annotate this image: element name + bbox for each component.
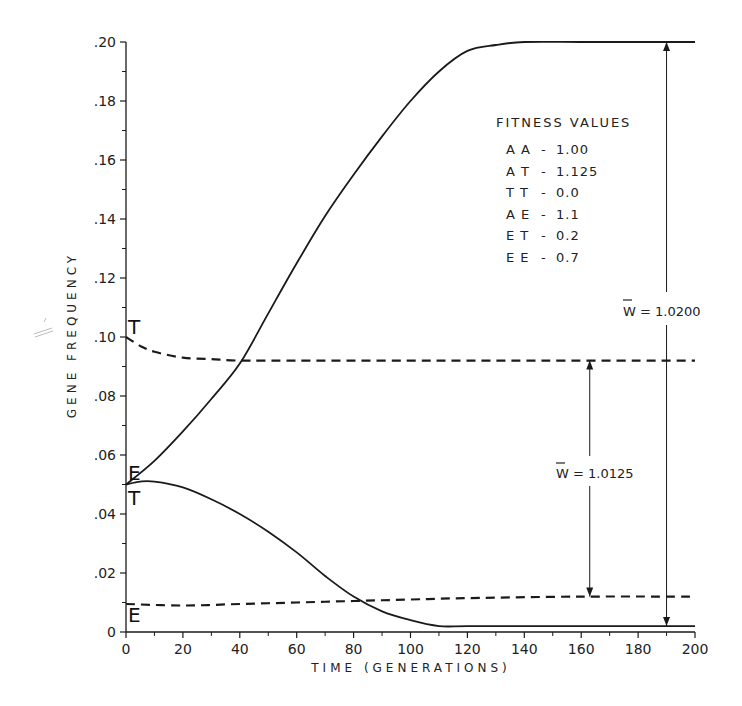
y-tick-label: .02 (94, 565, 116, 581)
legend-genotype: A A (506, 142, 531, 157)
legend: FITNESS VALUES A A-1.00A T-1.125T T-0.0A… (496, 115, 631, 265)
y-tick-label: .14 (94, 211, 116, 227)
series-t-dashed (126, 337, 695, 361)
y-tick-label: .18 (94, 93, 116, 109)
curve-label-t-solid: T (127, 486, 141, 510)
legend-fitness-value: 0.0 (556, 185, 580, 200)
x-tick-label: 100 (397, 641, 424, 657)
series-e-solid (126, 42, 695, 485)
curve-label-t-dashed: T (127, 315, 141, 339)
arrowhead-icon (586, 588, 593, 597)
legend-genotype: E T (506, 228, 529, 243)
x-tick-label: 20 (174, 641, 192, 657)
gene-frequency-chart: 0.02.04.06.08.10.12.14.16.18.20020406080… (0, 0, 742, 706)
y-tick-label: .04 (94, 506, 116, 522)
x-tick-label: 80 (345, 641, 363, 657)
x-tick-label: 120 (454, 641, 481, 657)
legend-separator: - (541, 142, 547, 157)
y-tick-label: 0 (107, 624, 116, 640)
x-tick-label: 200 (682, 641, 709, 657)
x-tick-label: 40 (231, 641, 249, 657)
legend-separator: - (541, 228, 547, 243)
curve-label-e-dashed: E (128, 603, 141, 627)
y-tick-label: .16 (94, 152, 116, 168)
y-axis-title: GENE FREQUENCY (65, 252, 79, 418)
y-tick-label: .12 (94, 270, 116, 286)
y-tick-label: .10 (94, 329, 116, 345)
legend-fitness-value: 1.1 (556, 207, 580, 222)
curve-label-e-solid: E (128, 461, 141, 485)
legend-genotype: A E (506, 207, 530, 222)
legend-title: FITNESS VALUES (496, 115, 631, 130)
x-tick-label: 0 (122, 641, 131, 657)
series-t-solid (126, 481, 695, 627)
w-bar-2-text: W = 1.0125 (556, 466, 634, 481)
legend-rows: A A-1.00A T-1.125T T-0.0A E-1.1E T-0.2E … (505, 142, 598, 265)
legend-fitness-value: 0.7 (556, 250, 580, 265)
arrowhead-icon (663, 617, 670, 626)
w-bar-1-text: W = 1.0200 (623, 304, 701, 319)
scan-smudge (34, 318, 53, 337)
y-tick-label: .20 (94, 34, 116, 50)
legend-separator: - (541, 250, 547, 265)
legend-fitness-value: 1.125 (556, 164, 598, 179)
w-bar-1-label: W = 1.0200 (623, 300, 701, 319)
y-tick-label: .08 (94, 388, 116, 404)
legend-genotype: E E (506, 250, 530, 265)
x-tick-label: 60 (288, 641, 306, 657)
x-tick-label: 160 (568, 641, 595, 657)
legend-separator: - (541, 164, 547, 179)
legend-genotype: A T (506, 164, 530, 179)
w-bar-2-label: W = 1.0125 (556, 463, 634, 481)
x-axis-title: TIME (GENERATIONS) (310, 661, 510, 675)
x-tick-label: 180 (625, 641, 652, 657)
legend-fitness-value: 0.2 (556, 228, 580, 243)
series-e-dashed (126, 597, 695, 606)
legend-separator: - (541, 185, 547, 200)
y-tick-label: .06 (94, 447, 116, 463)
legend-separator: - (541, 207, 547, 222)
legend-fitness-value: 1.00 (556, 142, 589, 157)
arrowhead-icon (663, 42, 670, 51)
x-tick-label: 140 (511, 641, 538, 657)
arrowhead-icon (586, 361, 593, 370)
legend-genotype: T T (505, 185, 529, 200)
